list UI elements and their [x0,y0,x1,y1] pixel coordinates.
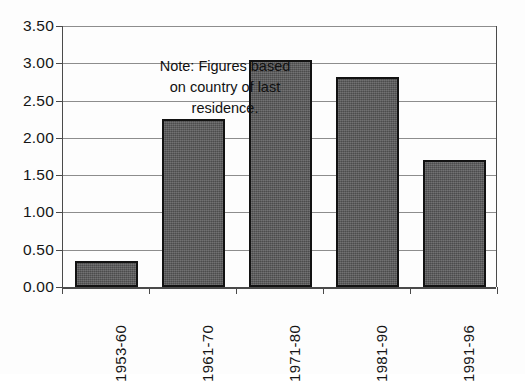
y-axis-tick-label: 0.00 [0,278,54,296]
plot-area: Note: Figures basedon country of lastres… [62,26,497,287]
y-axis-tick-label: 3.00 [0,54,54,72]
y-axis-tick-label: 0.50 [0,241,54,259]
note-line: residence. [141,98,309,119]
bar[interactable] [336,77,399,287]
x-axis-tick-label: 1981-90 [373,295,390,382]
note-annotation: Note: Figures basedon country of lastres… [141,56,309,119]
x-axis-tick-label: 1961-70 [199,295,216,382]
y-axis-tick-label: 2.00 [0,129,54,147]
bar[interactable] [75,261,138,287]
bar-slot [63,26,150,287]
note-line: Note: Figures based [141,56,309,77]
y-axis-tick-label: 2.50 [0,92,54,110]
note-line: on country of last [141,77,309,98]
x-axis-tick-label: 1953-60 [112,295,129,382]
bar-slot [411,26,498,287]
bar-slot [324,26,411,287]
bar[interactable] [423,160,486,287]
category-tick [497,287,498,294]
x-axis: 1953-601961-701971-801981-901991-96 [62,287,497,374]
y-axis-tick-label: 3.50 [0,17,54,35]
y-axis-tick-label: 1.00 [0,203,54,221]
y-axis-tick-label: 1.50 [0,166,54,184]
x-axis-tick-label: 1971-80 [286,295,303,382]
bar[interactable] [162,119,225,287]
x-axis-tick-label: 1991-96 [460,295,477,382]
